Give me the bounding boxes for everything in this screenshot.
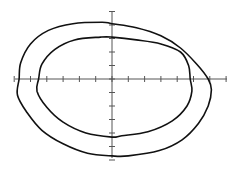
plot-canvas xyxy=(0,0,237,174)
axes xyxy=(14,12,227,161)
curves xyxy=(17,22,211,156)
outer-curve xyxy=(17,22,211,156)
